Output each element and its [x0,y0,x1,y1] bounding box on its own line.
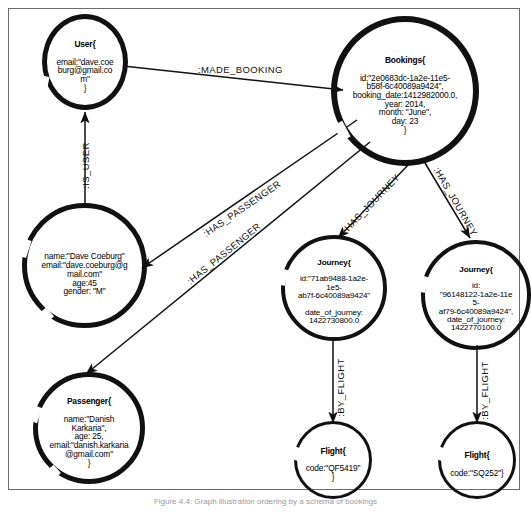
edge-label-made-booking: :MADE_BOOKING [198,64,283,75]
edge-label-by-flight-right: :BY_FLIGHT [479,361,490,419]
bookings-node[interactable]: Bookings{ id:"2e0683dc-1a2e-11e5- b58f-6… [331,16,479,166]
edge-label-by-flight-left: :BY_FLIGHT [335,358,346,416]
figure-canvas: :MADE_BOOKING :IS_USER :HAS_PASSENGER :H… [0,0,531,512]
passenger-node[interactable]: Passenger{ name:"Danish Karkaria", age: … [33,372,145,484]
user-node[interactable]: User{ email:"dave.coe burg@gmail.co m" } [42,14,128,110]
journey-node-left[interactable]: Journey{ id:"71ab9488-1a2e- 1e5- ab7f-6c… [281,235,387,341]
figure-caption: Figure 4.4: Graph illustration ordering … [0,497,531,512]
flight-node-right[interactable]: Flight{ code:"SQ252"} [438,421,516,499]
flight-node-left[interactable]: Flight{ code:"QF5419" } [294,421,372,499]
dave-coeburg-person-node[interactable]: name:"Dave Coeburg" email:"dave.coeburg@… [22,203,147,328]
edge-label-is-user: :IS_USER [80,142,91,189]
journey-node-right[interactable]: Journey{ id: "96148122-1a2e-11e 5- af79-… [421,240,531,350]
